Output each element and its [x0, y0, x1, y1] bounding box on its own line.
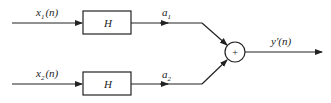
merge-arrow-1 — [202, 23, 227, 45]
input-label-2: x2(n) — [35, 67, 59, 82]
branch-top: x1(n) H a1 — [12, 6, 227, 45]
branch-bottom: x2(n) H a2 — [12, 60, 227, 95]
output-branch: y′(n) — [245, 35, 322, 52]
filter-label-1: H — [103, 17, 113, 29]
summing-junction: + — [225, 42, 245, 62]
gain-label-1: a1 — [162, 6, 171, 21]
filter-label-2: H — [103, 78, 113, 90]
block-diagram: x1(n) H a1 x2(n) H a2 + y′(n) — [0, 0, 331, 103]
merge-arrow-2 — [202, 60, 227, 84]
input-label-1: x1(n) — [35, 6, 59, 21]
plus-icon: + — [232, 47, 238, 58]
gain-label-2: a2 — [162, 68, 172, 83]
output-label: y′(n) — [270, 35, 291, 48]
